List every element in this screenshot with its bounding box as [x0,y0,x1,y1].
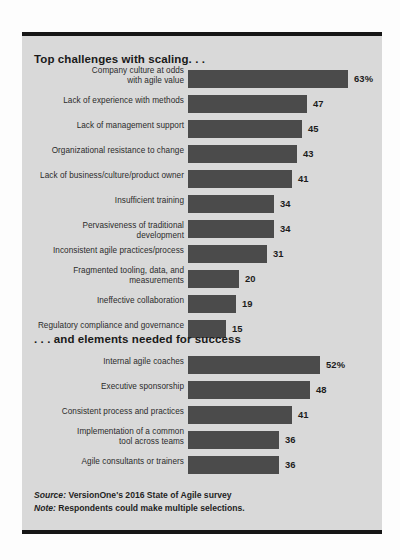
footer-note-line: Note: Respondents could make multiple se… [34,502,245,515]
bar-category-label: Lack of experience with methods [36,96,184,106]
bar-value-label: 48 [316,384,327,395]
chart-row: Company culture at oddswith agile value6… [22,66,382,91]
bar-category-label-line: Executive sponsorship [36,382,184,392]
bar-value-label: 34 [280,223,291,234]
bar-value-label: 52% [326,359,345,370]
bar [188,220,274,238]
bar [188,270,239,288]
bar-category-label: Lack of management support [36,121,184,131]
bar [188,356,320,374]
bar-category-label-line: with agile value [36,76,184,86]
footer-notes: Source: VersionOne's 2016 State of Agile… [34,489,245,515]
chart-row: Internal agile coaches52% [22,352,382,377]
chart-row: Consistent process and practices41 [22,402,382,427]
bar-category-label: Executive sponsorship [36,382,184,392]
bar [188,245,267,263]
footer-source-line: Source: VersionOne's 2016 State of Agile… [34,489,245,502]
page-root: Top challenges with scaling. . . Company… [0,0,400,560]
bar-category-label: Pervasiveness of traditional development [36,221,184,240]
bar-value-label: 20 [245,273,256,284]
bar-category-label: Company culture at oddswith agile value [36,66,184,85]
bar [188,406,292,424]
bar [188,95,307,113]
bar-category-label: Consistent process and practices [36,407,184,417]
bar [188,381,310,399]
section-heading-success: . . . and elements needed for success [34,333,241,345]
bar-category-label: Lack of business/culture/product owner [36,171,184,181]
chart-row: Fragmented tooling, data, andmeasurement… [22,266,382,291]
bar-value-label: 63% [354,73,373,84]
footer-note-label: Note: [34,503,56,513]
bar-category-label: Fragmented tooling, data, andmeasurement… [36,266,184,285]
chart-row: Lack of management support45 [22,116,382,141]
bar-category-label-line: Lack of management support [36,121,184,131]
bar-category-label: Implementation of a commontool across te… [36,427,184,446]
chart-row: Executive sponsorship48 [22,377,382,402]
chart-row: Pervasiveness of traditional development… [22,216,382,241]
bar-value-label: 41 [298,173,309,184]
bar [188,195,274,213]
bar-chart-elements-for-success: Internal agile coaches52%Executive spons… [22,352,382,477]
bar [188,431,279,449]
bar-category-label-line: Internal agile coaches [36,357,184,367]
chart-row: Lack of experience with methods47 [22,91,382,116]
bar-category-label-line: Ineffective collaboration [36,296,184,306]
bar-category-label: Organizational resistance to change [36,146,184,156]
bar-value-label: 45 [308,123,319,134]
bar-category-label-line: tool across teams [36,437,184,447]
chart-row: Lack of business/culture/product owner41 [22,166,382,191]
bar [188,170,292,188]
bar-category-label-line: Organizational resistance to change [36,146,184,156]
bar-category-label-line: Regulatory compliance and governance [36,321,184,331]
bar-category-label: Inconsistent agile practices/process [36,246,184,256]
bar-category-label: Insufficient training [36,196,184,206]
bar-category-label-line: Fragmented tooling, data, and [36,266,184,276]
bar-category-label-line: Agile consultants or trainers [36,457,184,467]
bar-chart-top-challenges: Company culture at oddswith agile value6… [22,66,382,341]
bar-value-label: 31 [273,248,284,259]
bar-category-label-line: measurements [36,276,184,286]
bar [188,456,279,474]
bar-category-label: Ineffective collaboration [36,296,184,306]
footer-source-text: VersionOne's 2016 State of Agile survey [68,490,231,500]
bar-category-label-line: Pervasiveness of traditional development [36,221,184,240]
bar-category-label: Internal agile coaches [36,357,184,367]
bar [188,295,236,313]
chart-row: Inconsistent agile practices/process31 [22,241,382,266]
bar [188,70,348,88]
bar-category-label-line: Implementation of a common [36,427,184,437]
chart-row: Organizational resistance to change43 [22,141,382,166]
bar [188,145,297,163]
chart-card-inner: Top challenges with scaling. . . Company… [22,32,382,534]
bar-value-label: 34 [280,198,291,209]
bar-value-label: 36 [285,434,296,445]
bar-category-label-line: Lack of experience with methods [36,96,184,106]
bar-value-label: 43 [303,148,314,159]
bar-category-label-line: Inconsistent agile practices/process [36,246,184,256]
bar-category-label-line: Consistent process and practices [36,407,184,417]
bar-category-label-line: Insufficient training [36,196,184,206]
bar-category-label: Regulatory compliance and governance [36,321,184,331]
chart-row: Implementation of a commontool across te… [22,427,382,452]
bar-value-label: 36 [285,459,296,470]
chart-card: Top challenges with scaling. . . Company… [22,32,382,534]
chart-row: Insufficient training34 [22,191,382,216]
bar-value-label: 41 [298,409,309,420]
footer-source-label: Source: [34,490,66,500]
bar-category-label-line: Company culture at odds [36,66,184,76]
section-heading-challenges: Top challenges with scaling. . . [34,53,205,65]
bar [188,120,302,138]
chart-row: Agile consultants or trainers36 [22,452,382,477]
chart-row: Ineffective collaboration19 [22,291,382,316]
bar-value-label: 19 [242,298,253,309]
bar-category-label: Agile consultants or trainers [36,457,184,467]
bar-category-label-line: Lack of business/culture/product owner [36,171,184,181]
footer-note-text: Respondents could make multiple selectio… [58,503,244,513]
bar-value-label: 47 [313,98,324,109]
